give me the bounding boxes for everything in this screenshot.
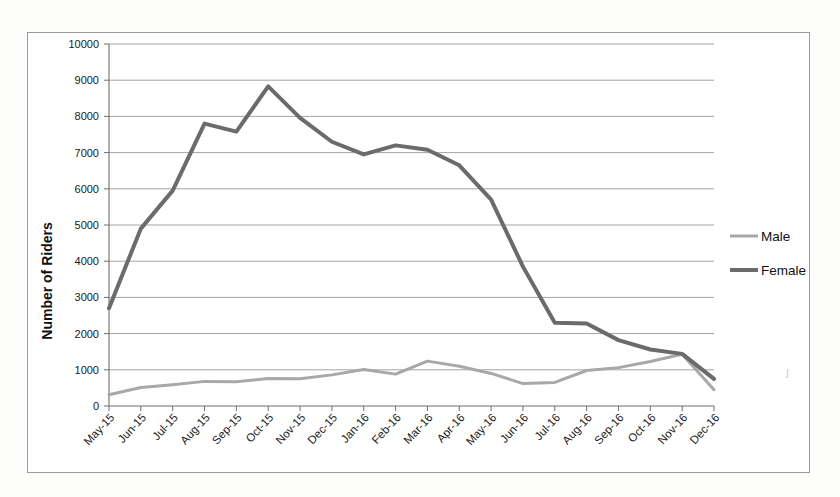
x-tick-label: May-16	[464, 411, 499, 447]
y-tick-label: 0	[93, 400, 99, 412]
series-lines	[109, 86, 714, 394]
x-tick-label: Jun-15	[116, 411, 149, 445]
y-tick-label: 8000	[75, 110, 99, 122]
y-tick-label: 9000	[75, 74, 99, 86]
x-tick-label: Nov-15	[273, 411, 307, 446]
x-tick-label: Jul-16	[532, 411, 562, 442]
x-tick-label: Aug-15	[178, 411, 212, 446]
x-tick-label: May-15	[82, 411, 117, 447]
x-tick-label: Nov-16	[656, 411, 690, 446]
x-tick-label: Mar-16	[401, 411, 435, 446]
x-tick-label: Apr-16	[434, 411, 466, 444]
x-tick-label: Jun-16	[498, 411, 531, 445]
x-tick-label: Dec-16	[687, 411, 721, 446]
x-tick-label: Jul-15	[150, 411, 180, 442]
page-artifact: ∫	[786, 368, 788, 378]
x-tick-label: Oct-15	[243, 411, 275, 444]
y-tick-label: 5000	[75, 219, 99, 231]
series-line-female	[109, 86, 714, 379]
line-chart: Number of Riders 01000200030004000500060…	[28, 33, 809, 472]
chart-legend: MaleFemale	[730, 229, 806, 278]
y-axis-title-text: Number of Riders	[39, 222, 55, 340]
x-tick-label: Feb-16	[369, 411, 403, 446]
chart-container: Number of Riders 01000200030004000500060…	[27, 32, 810, 473]
y-axis-tick-labels: 0100020003000400050006000700080009000100…	[68, 38, 109, 412]
x-tick-label: Sep-15	[210, 411, 244, 446]
x-axis-tick-marks	[109, 406, 714, 411]
y-tick-label: 7000	[75, 147, 99, 159]
y-tick-label: 4000	[75, 255, 99, 267]
x-axis-tick-labels: May-15Jun-15Jul-15Aug-15Sep-15Oct-15Nov-…	[82, 411, 722, 447]
x-tick-label: Dec-15	[305, 411, 339, 446]
gridlines	[109, 44, 714, 370]
x-tick-label: Sep-16	[592, 411, 626, 446]
y-tick-label: 2000	[75, 328, 99, 340]
y-tick-label: 3000	[75, 291, 99, 303]
y-tick-label: 6000	[75, 183, 99, 195]
x-tick-label: Oct-16	[625, 411, 657, 444]
x-tick-label: Jan-16	[338, 411, 371, 445]
y-tick-label: 10000	[68, 38, 99, 50]
series-line-male	[109, 354, 714, 395]
x-tick-label: Aug-16	[560, 411, 594, 446]
y-axis-title: Number of Riders	[39, 222, 55, 340]
legend-label-female: Female	[761, 263, 806, 278]
legend-label-male: Male	[761, 229, 790, 244]
y-tick-label: 1000	[75, 364, 99, 376]
